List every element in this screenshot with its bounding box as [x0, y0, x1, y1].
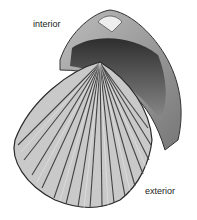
- interior-label: interior: [33, 19, 61, 29]
- shell-illustration: interior exterior: [0, 0, 197, 220]
- exterior-label: exterior: [145, 186, 175, 196]
